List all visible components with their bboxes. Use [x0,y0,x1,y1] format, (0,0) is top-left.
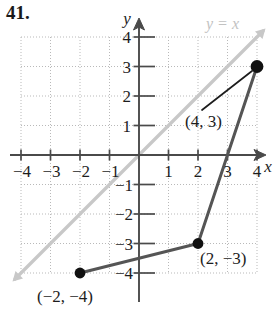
y-tick-label: 4 [123,28,132,47]
data-point-marker [193,238,204,249]
x-axis-label: x [263,157,272,176]
point-label-2-neg3: (2, −3) [200,249,246,268]
y-tick-label: −3 [115,235,133,254]
y-tick-label: 2 [123,87,132,106]
point-label-4-3: (4, 3) [185,112,222,131]
y-tick-label: 1 [123,117,132,136]
x-tick-label: −3 [42,162,60,181]
y-tick-label: 3 [123,58,132,77]
coordinate-plane-figure: −4 −3 −2 −1 1 2 3 4 4 3 2 1 −1 −2 −3 −4 … [0,0,276,309]
figure-page: 41. [0,0,276,309]
identity-line-label: y = x [204,15,239,33]
x-tick-label: 1 [164,162,173,181]
point-label-neg2-neg4: (−2, −4) [37,287,93,306]
y-tick-label: −1 [115,176,133,195]
x-tick-label: 2 [194,162,203,181]
y-tick-label: −2 [115,205,133,224]
y-axis-label: y [121,9,131,28]
x-tick-label: −2 [72,162,90,181]
x-tick-label: 4 [253,162,262,181]
y-tick-label: −4 [115,264,134,283]
x-tick-label: −4 [13,162,32,181]
data-point-marker [75,268,86,279]
